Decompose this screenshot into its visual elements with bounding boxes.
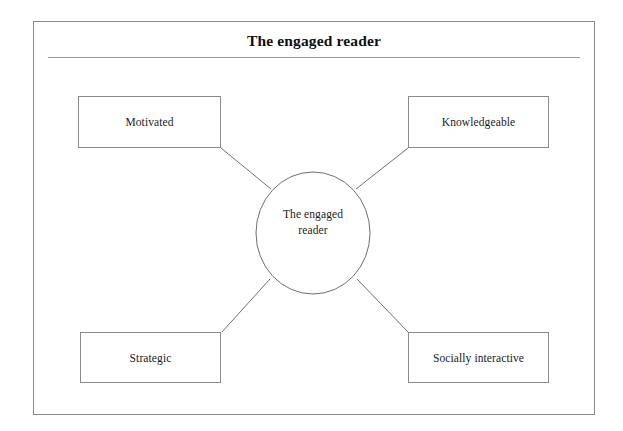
node-box-knowledgeable[interactable]: Knowledgeable (408, 96, 549, 148)
title-divider-rule (48, 57, 580, 58)
page-title: The engaged reader (33, 31, 595, 51)
hub-label: The engaged reader (256, 206, 370, 238)
node-label-motivated: Motivated (125, 116, 173, 128)
node-box-strategic[interactable]: Strategic (80, 332, 221, 383)
node-label-knowledgeable: Knowledgeable (442, 116, 515, 128)
node-box-socially-interactive[interactable]: Socially interactive (408, 332, 549, 383)
diagram-canvas: The engaged reader The engaged reader Mo… (0, 0, 623, 431)
hub-label-line-1: The engaged (256, 206, 370, 222)
hub-label-line-2: reader (256, 222, 370, 238)
node-box-motivated[interactable]: Motivated (78, 96, 221, 148)
node-label-strategic: Strategic (130, 352, 172, 364)
node-label-socially-interactive: Socially interactive (433, 352, 524, 364)
